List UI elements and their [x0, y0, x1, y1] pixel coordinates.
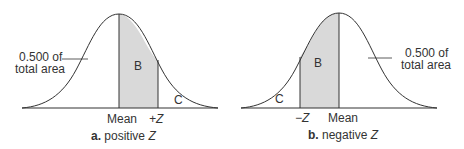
panel-negative-z: 0.500 of total area B C −Z Mean b. negat…: [241, 13, 451, 142]
normal-curve-figure: 0.500 of total area B C Mean +Z a. posit…: [0, 0, 464, 149]
area-note-line2: total area: [401, 58, 451, 72]
region-b-label: B: [134, 59, 142, 73]
axis-label-plus-z: +Z: [149, 112, 164, 126]
caption-b: b. negative Z: [308, 128, 379, 142]
region-b-label: B: [314, 56, 322, 70]
region-c-label: C: [174, 93, 183, 107]
region-c-label: C: [275, 92, 284, 106]
axis-label-minus-z: −Z: [295, 111, 310, 125]
panel-positive-z: 0.500 of total area B C Mean +Z a. posit…: [15, 14, 218, 143]
area-note-line2: total area: [15, 62, 65, 76]
axis-label-mean: Mean: [107, 112, 137, 126]
caption-a: a. positive Z: [91, 129, 156, 143]
axis-label-mean: Mean: [328, 111, 358, 125]
